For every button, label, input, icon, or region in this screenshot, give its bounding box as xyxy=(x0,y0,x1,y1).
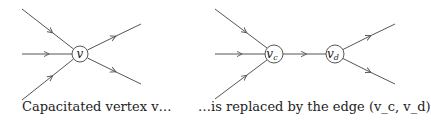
edge-in-bottom xyxy=(22,59,74,100)
edge-in-top xyxy=(215,9,267,48)
edge-out-top xyxy=(343,24,395,50)
left-caption: Capacitated vertex v… xyxy=(22,99,172,114)
edge-in-bottom xyxy=(215,60,267,99)
edge-out-top xyxy=(88,24,142,50)
edge-in-top xyxy=(22,9,74,49)
vertex-v-label: v xyxy=(77,47,84,61)
right-caption: …is replaced by the edge (v_c, v_d) xyxy=(198,99,431,114)
edge-out-bottom xyxy=(343,59,395,85)
right-graph xyxy=(215,9,395,99)
right-caption-text: …is replaced by the edge (v_c, v_d) xyxy=(198,99,431,114)
left-caption-text: Capacitated vertex v… xyxy=(22,99,172,114)
edge-out-bottom xyxy=(88,58,142,84)
